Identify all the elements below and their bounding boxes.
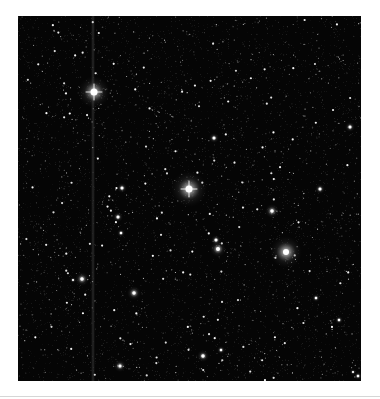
star-field-image [18,16,361,381]
bottom-divider [0,396,380,397]
star-field-canvas [18,16,361,381]
